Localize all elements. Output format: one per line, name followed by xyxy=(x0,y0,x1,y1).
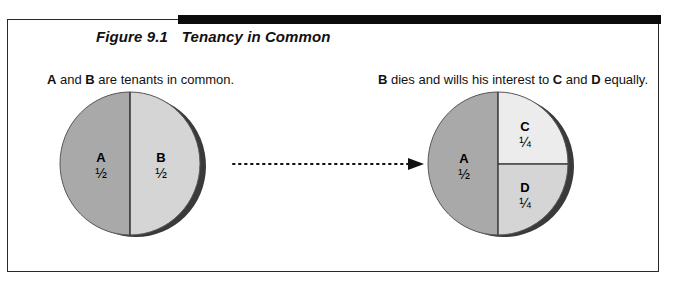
right-pie: A ½ C ¼ D ¼ xyxy=(428,92,574,237)
label-d: D xyxy=(520,180,529,195)
label-b: B xyxy=(156,150,165,165)
share-b: ½ xyxy=(155,165,167,181)
share-c: ¼ xyxy=(519,134,531,150)
share-a: ½ xyxy=(95,165,107,181)
share-d: ¼ xyxy=(519,195,531,211)
slice-d xyxy=(498,164,568,235)
label-c: C xyxy=(520,119,530,134)
label-a: A xyxy=(96,150,106,165)
slice-a xyxy=(60,92,130,235)
share-a: ½ xyxy=(458,166,470,182)
left-pie: A ½ B ½ xyxy=(60,92,206,237)
tenancy-diagram: A ½ B ½ A ½ C ¼ D ¼ xyxy=(0,0,696,285)
label-a: A xyxy=(459,151,469,166)
slice-c xyxy=(498,92,568,164)
